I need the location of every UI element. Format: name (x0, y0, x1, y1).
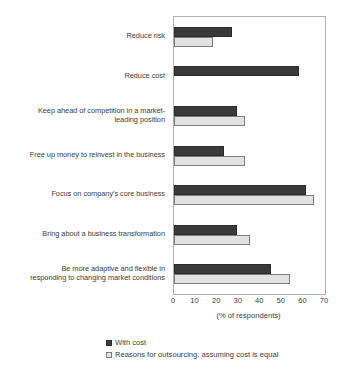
category-label: Reduce cost (0, 71, 165, 80)
bar-group (174, 106, 325, 126)
legend-item: Reasons for outsourcing, assuming cost i… (106, 349, 346, 360)
category-label: Reduce risk (0, 31, 165, 40)
axis-tick-label: 60 (298, 296, 306, 306)
category-label: Free up money to reinvest in the busines… (0, 150, 165, 159)
axis-tick-label: 10 (190, 296, 198, 306)
bar-with-cost (174, 27, 232, 37)
category-label: Focus on company's core business (0, 189, 165, 198)
bar-cost-equal (174, 156, 245, 166)
bar-with-cost (174, 146, 224, 156)
bar-cost-equal (174, 274, 290, 284)
category-label: Be more adaptive and flexible inrespondi… (0, 264, 165, 283)
category-label-line: Bring about a business transformation (0, 229, 165, 238)
bar-group (174, 185, 325, 205)
bar-group (174, 146, 325, 166)
category-label-line: leading position (0, 115, 165, 124)
bar-group (174, 225, 325, 245)
axis-tick-label: 0 (171, 296, 175, 306)
bar-group (174, 264, 325, 284)
category-label-line: Keep ahead of competition in a market- (0, 106, 165, 115)
legend-label: With cost (115, 338, 146, 347)
legend-swatch-icon (106, 352, 112, 358)
category-label-line: Focus on company's core business (0, 189, 165, 198)
bar-group (174, 27, 325, 47)
category-label-line: Free up money to reinvest in the busines… (0, 150, 165, 159)
plot-area (173, 16, 326, 295)
axis-tick-label: 50 (277, 296, 285, 306)
bar-cost-equal (174, 235, 250, 245)
axis-tick-label: 40 (255, 296, 263, 306)
bar-chart-figure: Reduce riskReduce costKeep ahead of comp… (0, 0, 346, 371)
axis-title: (% of respondents) (173, 311, 324, 320)
category-label-line: Be more adaptive and flexible in (0, 264, 165, 273)
bar-with-cost (174, 225, 237, 235)
legend-item: With cost (106, 337, 346, 348)
category-label: Keep ahead of competition in a market-le… (0, 106, 165, 125)
value-axis: 010203040506070 (173, 296, 324, 308)
category-label-line: Reduce cost (0, 71, 165, 80)
bar-with-cost (174, 106, 237, 116)
category-label-line: responding to changing market conditions (0, 273, 165, 282)
bar-with-cost (174, 185, 306, 195)
bar-cost-equal (174, 116, 245, 126)
bar-with-cost (174, 264, 271, 274)
bar-with-cost (174, 66, 299, 76)
legend-swatch-icon (106, 340, 112, 346)
category-axis: Reduce riskReduce costKeep ahead of comp… (0, 16, 169, 293)
axis-tick-label: 20 (212, 296, 220, 306)
bar-cost-equal (174, 195, 314, 205)
category-label: Bring about a business transformation (0, 229, 165, 238)
axis-tick-label: 30 (233, 296, 241, 306)
chart-legend: With costReasons for outsourcing, assumi… (106, 337, 346, 361)
bar-cost-equal (174, 37, 213, 47)
axis-tick-label: 70 (320, 296, 328, 306)
bar-group (174, 66, 325, 86)
legend-label: Reasons for outsourcing, assuming cost i… (115, 350, 278, 359)
category-label-line: Reduce risk (0, 31, 165, 40)
